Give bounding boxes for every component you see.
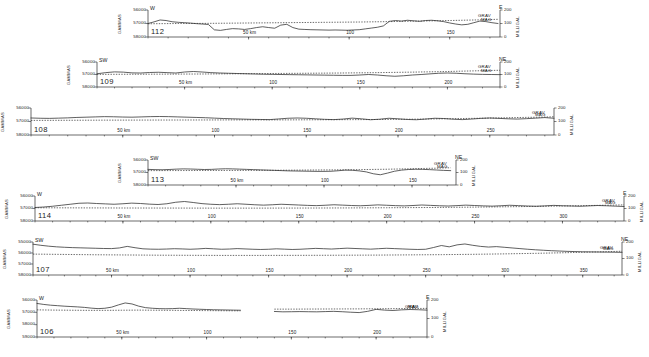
x-tick-label: 100 xyxy=(200,331,216,336)
magnetic-curve-label: MAG xyxy=(605,201,616,205)
x-tick-label: 200 xyxy=(340,269,356,274)
x-tick-label: 50 km xyxy=(116,129,132,134)
y-label-left: 57000 xyxy=(71,72,95,76)
profile-number: 109 xyxy=(100,78,114,86)
magnetic-curve-106 xyxy=(274,309,427,312)
x-tick-label: 50 km xyxy=(229,179,245,184)
right-axis-title: MILLIGAL xyxy=(471,165,476,186)
x-tick-label: 50 km xyxy=(116,215,132,220)
profile-number: 106 xyxy=(40,328,54,336)
magnetic-curve-108 xyxy=(31,117,554,120)
y-label-left: 56000 xyxy=(9,194,33,198)
left-axis-title: GAMMAS xyxy=(117,163,122,183)
y-label-left: 58000 xyxy=(7,273,31,277)
y-label-left: 56000 xyxy=(11,298,35,302)
direction-label-left: W xyxy=(39,296,44,301)
magnetic-curve-106 xyxy=(37,303,240,310)
y-label-left: 57000 xyxy=(7,262,31,266)
x-tick-label: 100 xyxy=(204,215,220,220)
x-tick-label: 150 xyxy=(284,331,300,336)
y-label-left: 56000 xyxy=(7,251,31,255)
left-axis-title: GAMMAS xyxy=(66,65,71,85)
direction-label-right: NE xyxy=(455,155,462,160)
x-tick-label: 100 xyxy=(342,31,358,36)
gravity-curve-106 xyxy=(37,310,240,311)
profile-panel-106: 59000580005700056000200100050 km10015020… xyxy=(37,296,427,348)
y-label-right: 0 xyxy=(431,335,447,339)
y-label-right: 200 xyxy=(504,8,520,12)
x-tick-label: 250 xyxy=(483,129,499,134)
direction-label-right: E xyxy=(499,5,503,10)
direction-label-right: E xyxy=(426,295,430,300)
y-label-left: 58000 xyxy=(122,183,146,187)
x-tick-label: 200 xyxy=(440,81,456,86)
x-tick-label: 200 xyxy=(380,215,396,220)
direction-label-left: SW xyxy=(150,156,159,161)
y-label-left: 58000 xyxy=(71,85,95,89)
y-label-left: 57000 xyxy=(5,119,29,123)
profile-panel-108: 580005700056000200100050 km1001502002501… xyxy=(31,104,554,146)
direction-label-left: SW xyxy=(35,238,44,243)
plot-114 xyxy=(35,192,624,232)
direction-label-left: W xyxy=(37,192,42,197)
x-tick-label: 150 xyxy=(262,269,278,274)
magnetic-curve-label: MAG xyxy=(408,305,419,309)
x-tick-label: 50 km xyxy=(242,31,258,36)
magnetic-curve-label: MAG xyxy=(603,247,614,251)
x-tick-label: 250 xyxy=(468,215,484,220)
x-tick-label: 100 xyxy=(208,129,224,134)
magnetic-curve-107 xyxy=(33,244,622,252)
x-tick-label: 100 xyxy=(317,179,333,184)
gravity-curve-107 xyxy=(33,251,622,255)
x-tick-label: 300 xyxy=(555,215,571,220)
figure-canvas: 580005700056000200100050 km100150112WEGR… xyxy=(0,0,649,357)
left-axis-title: GAMMAS xyxy=(117,14,122,34)
y-label-left: 59000 xyxy=(11,335,35,339)
plot-112 xyxy=(148,6,500,48)
magnetic-curve-label: MAG xyxy=(437,165,448,169)
y-label-right: 200 xyxy=(628,194,644,198)
right-axis-title: MILLIGAL xyxy=(637,251,642,272)
x-tick-label: 150 xyxy=(292,215,308,220)
y-label-left: 56000 xyxy=(122,8,146,12)
y-label-right: 200 xyxy=(431,298,447,302)
x-tick-label: 200 xyxy=(391,129,407,134)
y-label-left: 57000 xyxy=(122,21,146,25)
magnetic-curve-113 xyxy=(148,169,451,175)
right-axis-title: MILLIGAL xyxy=(442,311,447,332)
x-tick-label: 100 xyxy=(265,81,281,86)
x-tick-label: 50 km xyxy=(178,81,194,86)
plot-109 xyxy=(97,58,500,98)
right-axis-title: MILLIGAL xyxy=(569,114,574,135)
x-tick-label: 100 xyxy=(183,269,199,274)
y-label-left: 56000 xyxy=(122,158,146,162)
direction-label-left: W xyxy=(150,6,155,11)
profile-panel-109: 580005700056000200100050 km100150200109S… xyxy=(97,58,500,98)
right-axis-title: MILLIGAL xyxy=(639,201,644,222)
y-label-right: 0 xyxy=(626,273,642,277)
profile-number: 108 xyxy=(34,126,48,134)
magnetic-curve-label: MAG xyxy=(481,69,492,73)
profile-number: 113 xyxy=(151,176,164,184)
profile-number: 107 xyxy=(36,266,50,274)
y-label-right: 200 xyxy=(558,106,574,110)
direction-label-right: NE xyxy=(621,237,628,242)
y-label-left: 58000 xyxy=(122,35,146,39)
x-tick-label: 200 xyxy=(369,331,385,336)
x-tick-label: 150 xyxy=(353,81,369,86)
x-tick-label: 50 km xyxy=(115,331,131,336)
profile-panel-107: 58000570005600055000200100050 km10015020… xyxy=(33,238,622,286)
right-axis-title: MILLIGAL xyxy=(515,67,520,88)
plot-106 xyxy=(37,296,427,348)
x-tick-label: 150 xyxy=(299,129,315,134)
y-label-left: 56000 xyxy=(71,60,95,64)
plot-107 xyxy=(33,238,622,286)
y-label-left: 58000 xyxy=(11,322,35,326)
x-tick-label: 150 xyxy=(443,31,459,36)
left-axis-title: GAMMAS xyxy=(4,199,9,219)
y-label-left: 57000 xyxy=(11,310,35,314)
direction-label-left: SW xyxy=(99,58,108,63)
right-axis-title: MILLIGAL xyxy=(515,16,520,37)
magnetic-curve-label: MAG xyxy=(535,113,546,117)
y-label-left: 58000 xyxy=(9,219,33,223)
